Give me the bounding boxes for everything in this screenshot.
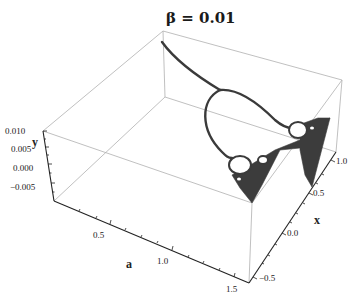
a-tick-10: 1.0 — [157, 256, 169, 266]
a-tick-05: 0.5 — [93, 230, 105, 240]
bifurcation-branches — [162, 42, 314, 181]
a-tick-15: 1.5 — [226, 284, 238, 294]
y-tick-neg0005: −0.005 — [10, 182, 36, 192]
x-tick-neg05: −0.5 — [259, 273, 276, 283]
x-axis-label: x — [314, 213, 320, 227]
y-axis-label: y — [32, 135, 38, 149]
x-tick-10: 1.0 — [336, 156, 348, 166]
a-axis-label: a — [126, 257, 132, 271]
y-tick-0010: 0.010 — [5, 126, 26, 136]
bifurcation-3d-plot: β = 0.01 — [0, 0, 362, 305]
axes — [43, 131, 336, 283]
x-tick-05: 0.5 — [313, 188, 325, 198]
y-tick-0005: 0.005 — [11, 144, 32, 154]
x-tick-00: 0.0 — [287, 228, 299, 238]
plot-title: β = 0.01 — [166, 9, 236, 27]
plot-box — [43, 31, 342, 283]
a-tick-labels: 0.5 1.0 1.5 — [93, 230, 238, 294]
y-tick-0000: 0.000 — [13, 163, 34, 173]
